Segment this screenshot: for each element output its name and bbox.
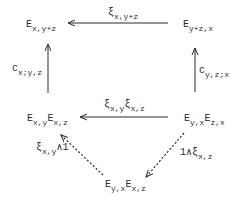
node-middle-left: Ex,yEx,z <box>27 114 68 128</box>
node-top-right: Ey+z,x <box>183 20 213 34</box>
label-right-vertical-arrow: cy,z;x <box>199 66 229 80</box>
label-top-arrow: ξx,y+z <box>108 8 138 22</box>
right-diagonal-dashed-arrow <box>146 133 184 177</box>
label-left-vertical-arrow: cx;y,z <box>12 64 42 78</box>
label-middle-arrow: ξx,yξx,z <box>104 100 145 114</box>
label-left-diagonal-arrow: ξx,y∧1 <box>36 143 68 157</box>
node-top-left: Ex,y+z <box>26 20 56 34</box>
node-bottom: Ey,xEx,z <box>105 180 146 194</box>
node-middle-right: Ey,xEz,x <box>184 114 225 128</box>
label-right-diagonal-arrow: 1∧ξx,z <box>180 148 212 162</box>
